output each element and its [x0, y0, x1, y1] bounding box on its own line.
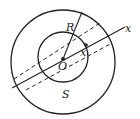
- diagram-canvas: R O x x S: [0, 0, 140, 119]
- center-label: O: [58, 60, 67, 73]
- distance-label: x: [80, 46, 87, 59]
- area-label: S: [62, 88, 70, 101]
- x-axis-line: [12, 27, 125, 88]
- radius-label: R: [65, 21, 74, 34]
- axis-label: x: [125, 22, 132, 35]
